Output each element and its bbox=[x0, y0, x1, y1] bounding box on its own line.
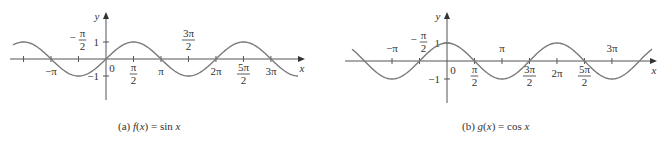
x-tick-label: π2 bbox=[471, 63, 479, 88]
y-tick-label: −1 bbox=[428, 73, 440, 85]
x-axis-label: x bbox=[651, 64, 657, 76]
x-tick-label: −π2 bbox=[411, 29, 428, 54]
caption-prefix: (b) bbox=[462, 120, 478, 132]
x-tick-label: −π bbox=[45, 65, 57, 77]
svg-text:π: π bbox=[131, 61, 137, 73]
caption-eq: = sin bbox=[148, 120, 175, 132]
svg-text:π: π bbox=[472, 63, 478, 75]
svg-text:2: 2 bbox=[527, 76, 533, 88]
origin-label: 0 bbox=[109, 62, 115, 74]
svg-text:5π: 5π bbox=[238, 61, 250, 73]
x-tick-label: 2π bbox=[210, 65, 222, 77]
svg-text:2: 2 bbox=[80, 40, 86, 52]
caption-sine: (a) f(x) = sin x bbox=[118, 120, 180, 132]
x-tick-label: 3π2 bbox=[182, 27, 195, 52]
y-axis-arrow-icon bbox=[103, 12, 109, 19]
caption-prefix: (a) bbox=[118, 120, 133, 132]
svg-text:2: 2 bbox=[131, 74, 137, 86]
svg-text:2: 2 bbox=[241, 74, 247, 86]
y-tick-label: −1 bbox=[87, 70, 99, 82]
svg-text:2: 2 bbox=[472, 76, 478, 88]
y-axis-label: y bbox=[94, 10, 100, 22]
cosine-graph: xy01−1−π−π2π2π3π22π5π23π bbox=[345, 10, 657, 103]
x-tick-label: 3π bbox=[265, 65, 277, 77]
svg-text:π: π bbox=[421, 29, 427, 41]
x-tick-label: 5π2 bbox=[237, 61, 250, 86]
caption-cosine: (b) g(x) = cos x bbox=[462, 120, 529, 132]
x-tick-label: 5π2 bbox=[578, 63, 591, 88]
x-tick-label: π bbox=[499, 42, 505, 54]
y-axis-arrow-icon bbox=[444, 12, 450, 19]
caption-eq: = cos bbox=[495, 120, 524, 132]
x-tick-label: π2 bbox=[130, 61, 138, 86]
sine-graph: xy01−1−π−π2π2π3π22π5π23π bbox=[10, 10, 305, 100]
x-tick-label: −π bbox=[386, 42, 398, 54]
caption-var: x bbox=[524, 120, 529, 132]
x-tick-label: 2π bbox=[551, 67, 563, 79]
x-tick-label: −π2 bbox=[70, 27, 87, 52]
caption-var: x bbox=[176, 120, 181, 132]
x-axis-label: x bbox=[299, 62, 305, 74]
caption-arg: (x) bbox=[483, 120, 495, 132]
svg-text:2: 2 bbox=[421, 42, 427, 54]
svg-text:2: 2 bbox=[186, 40, 192, 52]
svg-text:−: − bbox=[411, 33, 417, 45]
x-tick-label: 3π bbox=[606, 42, 618, 54]
x-tick-label: 3π2 bbox=[523, 63, 536, 88]
caption-arg: (x) bbox=[136, 120, 148, 132]
svg-text:2: 2 bbox=[582, 76, 588, 88]
svg-text:π: π bbox=[80, 27, 86, 39]
svg-text:3π: 3π bbox=[183, 27, 195, 39]
y-tick-label: 1 bbox=[94, 36, 100, 48]
y-axis-label: y bbox=[435, 10, 441, 22]
origin-label: 0 bbox=[450, 64, 456, 76]
x-tick-label: π bbox=[158, 65, 164, 77]
svg-text:−: − bbox=[70, 31, 76, 43]
trig-graphs: xy01−1−π−π2π2π3π22π5π23π xy01−1−π−π2π2π3… bbox=[0, 0, 663, 142]
